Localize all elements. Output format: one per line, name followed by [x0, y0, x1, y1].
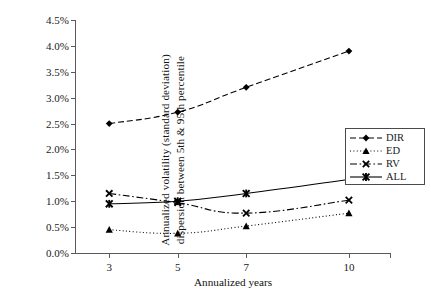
- y-tick-label: 2.0%: [33, 144, 69, 154]
- y-tick-mark: [71, 46, 75, 47]
- x-tick-label: 3: [94, 261, 124, 273]
- data-point-triangle: [345, 210, 352, 217]
- legend-swatch-all: [349, 171, 383, 183]
- x-tick-mark: [349, 254, 350, 258]
- y-tick-mark: [71, 20, 75, 21]
- legend: DIREDRVALL: [345, 128, 425, 185]
- y-tick-label: 0.5%: [33, 222, 69, 232]
- y-tick-mark: [71, 98, 75, 99]
- legend-label: DIR: [383, 132, 404, 144]
- y-tick-mark: [71, 227, 75, 228]
- plot-area: [75, 20, 390, 253]
- x-tick-label: 7: [231, 261, 261, 273]
- legend-item-rv[interactable]: RV: [346, 157, 424, 170]
- y-tick-label: 2.5%: [33, 119, 69, 129]
- series-line-all: [109, 179, 349, 203]
- y-axis-title: Annualized volatility (standard deviatio…: [0, 0, 34, 300]
- y-tick-label: 0.0%: [33, 248, 69, 258]
- y-tick-mark: [71, 149, 75, 150]
- legend-swatch-ed: [349, 145, 383, 157]
- x-tick-mark: [246, 254, 247, 258]
- data-point-triangle: [174, 230, 181, 237]
- x-axis-end-tick: [390, 254, 391, 258]
- series-line-ed: [109, 213, 349, 233]
- series-line-dir: [109, 51, 349, 123]
- data-point-triangle: [106, 226, 113, 233]
- line-chart: Annualized volatility (standard deviatio…: [0, 0, 431, 300]
- y-axis-tick-labels: 0.0%0.5%1.0%1.5%2.0%2.5%3.0%3.5%4.0%4.5%: [33, 0, 69, 300]
- legend-swatch-dir: [349, 132, 383, 144]
- data-point-diamond: [363, 134, 370, 141]
- legend-swatch-rv: [349, 158, 383, 170]
- y-tick-label: 1.0%: [33, 196, 69, 206]
- legend-label: ALL: [383, 171, 406, 183]
- y-tick-label: 3.5%: [33, 67, 69, 77]
- legend-item-dir[interactable]: DIR: [346, 131, 424, 144]
- data-point-diamond: [174, 109, 181, 116]
- x-tick-label: 5: [163, 261, 193, 273]
- legend-item-all[interactable]: ALL: [346, 170, 424, 183]
- y-tick-mark: [71, 201, 75, 202]
- legend-label: ED: [383, 145, 400, 157]
- data-point-diamond: [346, 48, 353, 55]
- y-tick-mark: [71, 124, 75, 125]
- legend-item-ed[interactable]: ED: [346, 144, 424, 157]
- y-tick-label: 4.5%: [33, 15, 69, 25]
- y-tick-mark: [71, 253, 75, 254]
- y-tick-mark: [71, 72, 75, 73]
- data-point-triangle: [362, 147, 369, 154]
- series-layer: [75, 20, 390, 253]
- y-tick-label: 3.0%: [33, 93, 69, 103]
- x-tick-mark: [109, 254, 110, 258]
- x-tick-mark: [178, 254, 179, 258]
- y-tick-mark: [71, 175, 75, 176]
- x-tick-label: 10: [334, 261, 364, 273]
- legend-label: RV: [383, 158, 400, 170]
- x-axis-title: Annualized years: [75, 276, 391, 288]
- y-tick-label: 4.0%: [33, 41, 69, 51]
- x-axis-line: [75, 253, 391, 254]
- y-tick-label: 1.5%: [33, 170, 69, 180]
- data-point-diamond: [106, 120, 113, 127]
- data-point-diamond: [243, 84, 250, 91]
